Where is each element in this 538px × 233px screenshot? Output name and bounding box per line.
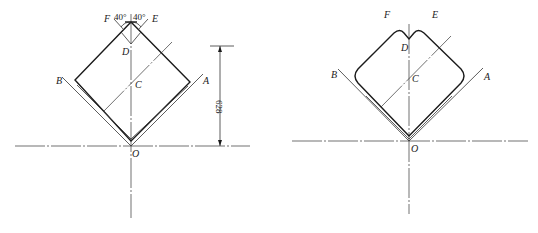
right-inner-edge-b xyxy=(366,96,409,139)
right-inner-edge-a xyxy=(409,96,452,139)
right-label-A: A xyxy=(483,71,491,82)
left-angle-right: 40° xyxy=(133,12,146,22)
left-dim-arrow-top xyxy=(218,46,222,52)
left-square-profile xyxy=(75,22,190,141)
left-angle-left: 40° xyxy=(114,12,127,22)
left-line-OA xyxy=(131,74,203,146)
left-label-O: O xyxy=(132,148,139,159)
right-diagonal-centerline xyxy=(381,36,451,107)
left-inner-edge-b xyxy=(77,85,131,139)
left-figure: 628 F 40° 40° E D C B A O xyxy=(15,12,250,218)
right-label-O: O xyxy=(411,143,418,154)
left-dim-value: 628 xyxy=(214,100,224,114)
right-line-OA xyxy=(409,68,483,141)
left-diagonal-centerline xyxy=(103,42,172,112)
left-label-B: B xyxy=(56,75,62,86)
left-line-OB xyxy=(62,77,131,146)
right-label-F: F xyxy=(383,9,391,20)
right-label-B: B xyxy=(331,69,337,80)
left-label-C: C xyxy=(135,79,142,90)
left-label-D: D xyxy=(121,46,130,57)
right-line-OB xyxy=(338,69,409,141)
left-dim-arrow-bottom xyxy=(218,140,222,146)
left-label-F: F xyxy=(103,13,111,24)
left-label-A: A xyxy=(202,75,210,86)
right-label-E: E xyxy=(431,9,438,20)
diagram-canvas: 628 F 40° 40° E D C B A O F E D C B A O xyxy=(0,0,538,233)
right-label-C: C xyxy=(412,73,419,84)
left-label-E: E xyxy=(151,13,158,24)
right-figure: F E D C B A O xyxy=(292,9,528,214)
right-rounded-profile xyxy=(355,31,464,137)
right-label-D: D xyxy=(400,42,409,53)
left-inner-edge-a xyxy=(131,86,188,139)
